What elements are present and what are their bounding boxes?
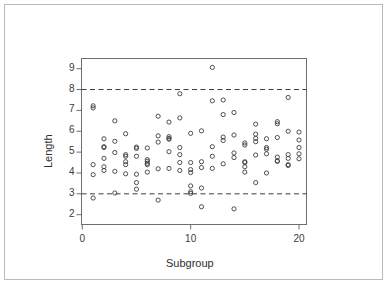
data-point bbox=[91, 173, 95, 177]
y-tick-label: 7 bbox=[65, 103, 75, 114]
data-point bbox=[145, 146, 149, 150]
data-point bbox=[134, 172, 138, 176]
data-point bbox=[232, 110, 236, 114]
data-point bbox=[189, 160, 193, 164]
data-point bbox=[297, 157, 301, 161]
data-point bbox=[178, 92, 182, 96]
data-point bbox=[134, 187, 138, 191]
data-point bbox=[178, 145, 182, 149]
data-point bbox=[297, 138, 301, 142]
data-point bbox=[145, 170, 149, 174]
data-point bbox=[178, 153, 182, 157]
data-point bbox=[102, 137, 106, 141]
data-points bbox=[91, 65, 301, 211]
data-point bbox=[254, 153, 258, 157]
data-point bbox=[113, 139, 117, 143]
data-point bbox=[297, 152, 301, 156]
data-point bbox=[210, 145, 214, 149]
data-point bbox=[297, 145, 301, 149]
data-point bbox=[156, 114, 160, 118]
data-point bbox=[243, 170, 247, 174]
plot-box bbox=[82, 59, 307, 225]
data-point bbox=[156, 198, 160, 202]
data-point bbox=[189, 170, 193, 174]
data-point bbox=[221, 112, 225, 116]
data-point bbox=[254, 122, 258, 126]
data-point bbox=[113, 191, 117, 195]
control-limit-lines bbox=[82, 90, 307, 194]
data-point bbox=[113, 169, 117, 173]
data-point bbox=[178, 116, 182, 120]
y-axis-title: Length bbox=[42, 134, 54, 168]
data-point bbox=[286, 95, 290, 99]
data-point bbox=[232, 151, 236, 155]
data-point bbox=[91, 163, 95, 167]
data-point bbox=[156, 167, 160, 171]
data-point bbox=[189, 184, 193, 188]
data-point bbox=[221, 162, 225, 166]
data-point bbox=[178, 160, 182, 164]
data-point bbox=[232, 133, 236, 137]
data-point bbox=[232, 207, 236, 211]
data-point bbox=[264, 171, 268, 175]
data-point bbox=[199, 129, 203, 133]
data-point bbox=[297, 130, 301, 134]
y-tick-label: 8 bbox=[65, 83, 75, 94]
data-point bbox=[113, 150, 117, 154]
y-tick-label: 6 bbox=[65, 124, 75, 135]
data-point bbox=[199, 165, 203, 169]
data-point bbox=[254, 180, 258, 184]
data-point bbox=[178, 168, 182, 172]
data-point bbox=[221, 98, 225, 102]
data-point bbox=[167, 120, 171, 124]
data-point bbox=[189, 131, 193, 135]
data-point bbox=[232, 155, 236, 159]
x-tick-label: 10 bbox=[181, 233, 201, 244]
data-point bbox=[156, 134, 160, 138]
data-point bbox=[210, 166, 214, 170]
data-point bbox=[275, 135, 279, 139]
data-point bbox=[199, 186, 203, 190]
x-tick-label: 0 bbox=[72, 233, 92, 244]
data-point bbox=[199, 205, 203, 209]
data-point bbox=[91, 196, 95, 200]
data-point bbox=[113, 119, 117, 123]
plot-area-border bbox=[82, 59, 307, 225]
data-point bbox=[124, 163, 128, 167]
x-tick-label: 20 bbox=[289, 233, 309, 244]
data-point bbox=[210, 99, 214, 103]
y-tick-label: 2 bbox=[65, 208, 75, 219]
data-point bbox=[264, 137, 268, 141]
data-point bbox=[102, 156, 106, 160]
y-tick-label: 5 bbox=[65, 145, 75, 156]
x-axis-title: Subgroup bbox=[166, 257, 214, 269]
data-point bbox=[199, 160, 203, 164]
data-point bbox=[167, 166, 171, 170]
data-point bbox=[124, 172, 128, 176]
data-point bbox=[124, 132, 128, 136]
data-point bbox=[243, 165, 247, 169]
data-point bbox=[134, 154, 138, 158]
data-point bbox=[210, 65, 214, 69]
data-point bbox=[286, 129, 290, 133]
data-point bbox=[264, 152, 268, 156]
data-point bbox=[254, 132, 258, 136]
data-point bbox=[210, 154, 214, 158]
y-tick-label: 9 bbox=[65, 62, 75, 73]
data-point bbox=[167, 150, 171, 154]
data-point bbox=[156, 140, 160, 144]
y-tick-label: 3 bbox=[65, 187, 75, 198]
data-point bbox=[134, 180, 138, 184]
y-tick-label: 4 bbox=[65, 166, 75, 177]
